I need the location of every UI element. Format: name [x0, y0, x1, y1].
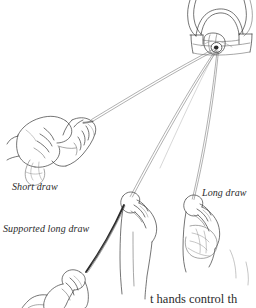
flyer-orifice — [214, 46, 219, 50]
label-short-draw: Short draw — [12, 181, 58, 192]
illustration-figure: Short draw Supported long draw Long draw — [0, 0, 256, 308]
spinning-draw-diagram: Short draw Supported long draw Long draw — [0, 0, 256, 308]
label-long-draw: Long draw — [201, 187, 247, 198]
figure-caption: t hands control th — [150, 292, 256, 306]
label-supported-long-draw: Supported long draw — [3, 223, 90, 234]
